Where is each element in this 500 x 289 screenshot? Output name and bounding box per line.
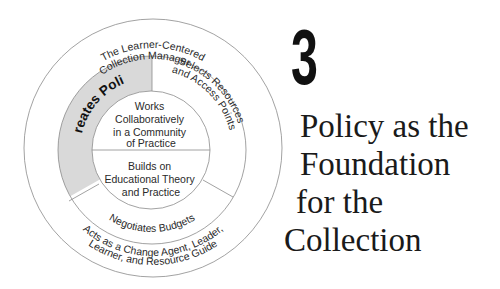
chapter-number: 3 — [291, 18, 318, 96]
chapter-title: Policy as the Foundation for the Collect… — [284, 107, 469, 259]
chapter-title-line: Foundation — [284, 145, 469, 183]
chapter-title-line: for the — [284, 183, 469, 221]
chapter-title-line: Collection — [284, 221, 469, 259]
middle-divider-lower-right — [203, 180, 233, 197]
negotiates-budgets-label: Negotiates Budgets — [107, 211, 196, 234]
chapter-title-line: Policy as the — [284, 107, 469, 145]
